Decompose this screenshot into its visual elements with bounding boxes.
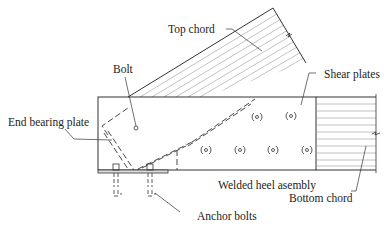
top-chord — [128, 8, 357, 97]
bolt — [134, 126, 138, 130]
label-bottom-chord: Bottom chord — [289, 193, 353, 205]
label-anchor-bolts: Anchor bolts — [197, 211, 257, 223]
label-shear-plates: Shear plates — [324, 69, 380, 81]
truss-heel-diagram: Top chord Bolt Shear plates End bearing … — [0, 0, 387, 235]
label-welded-heel-assembly: Welded heel asembly — [218, 180, 316, 192]
label-end-bearing-plate: End bearing plate — [8, 117, 89, 129]
base-plate — [98, 170, 168, 173]
end-bearing-plate — [102, 99, 255, 172]
shear-plates — [201, 112, 312, 154]
bottom-chord — [316, 94, 380, 173]
anchor-bolts — [113, 164, 156, 196]
label-top-chord: Top chord — [168, 24, 215, 36]
label-bolt: Bolt — [113, 64, 133, 76]
